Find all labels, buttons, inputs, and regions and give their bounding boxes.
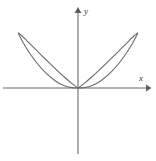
polar-rose-figure: y x bbox=[0, 0, 156, 161]
x-axis-label: x bbox=[138, 73, 143, 83]
y-axis-label: y bbox=[83, 6, 88, 16]
plot-canvas: y x bbox=[0, 0, 156, 161]
